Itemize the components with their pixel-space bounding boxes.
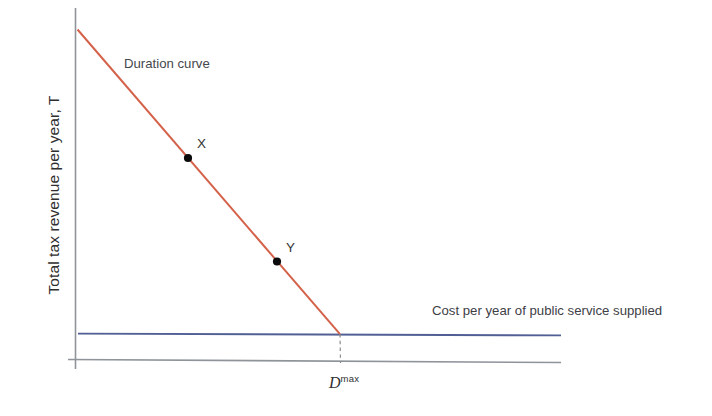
duration-curve-chart: Total tax revenue per year, T Duration c… bbox=[0, 0, 712, 416]
x-axis-line bbox=[68, 360, 561, 363]
dmax-superscript: max bbox=[341, 373, 360, 384]
cost-line-label: Cost per year of public service supplied bbox=[432, 303, 662, 318]
cost-line bbox=[78, 334, 561, 336]
dmax-symbol: D bbox=[329, 374, 341, 391]
point-x-label: X bbox=[197, 136, 206, 151]
point-y-label: Y bbox=[286, 240, 295, 255]
dmax-axis-label: Dmax bbox=[329, 373, 359, 392]
point-y-marker bbox=[273, 257, 281, 265]
duration-curve-label: Duration curve bbox=[124, 56, 210, 71]
duration-curve-line bbox=[78, 30, 341, 335]
dmax-dashed-line bbox=[340, 334, 341, 363]
point-x-marker bbox=[184, 154, 192, 162]
chart-canvas bbox=[0, 0, 712, 416]
y-axis-label: Total tax revenue per year, T bbox=[45, 55, 63, 335]
